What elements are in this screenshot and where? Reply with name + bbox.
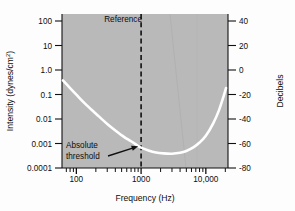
right-axis-ticks bbox=[228, 21, 236, 168]
y2-tick-label-minus-20: -20 bbox=[239, 91, 251, 100]
threshold-of-hearing-chart: 100 10 1.0 0.1 0.01 0.001 0.0001 40 20 0… bbox=[0, 0, 295, 211]
y-tick-label-100: 100 bbox=[38, 17, 52, 26]
y2-tick-label-20: 20 bbox=[239, 42, 249, 51]
y2-axis-title: Decibels bbox=[275, 75, 285, 108]
x-tick-label-10000: 10,000 bbox=[193, 175, 218, 184]
figure-container: 100 10 1.0 0.1 0.01 0.001 0.0001 40 20 0… bbox=[0, 0, 295, 211]
x-tick-label-1000: 1000 bbox=[132, 175, 151, 184]
y2-tick-label-minus-60: -60 bbox=[239, 140, 251, 149]
y-tick-label-0-01: 0.01 bbox=[36, 115, 52, 124]
left-axis-ticks bbox=[55, 21, 62, 168]
y-tick-label-0-0001: 0.0001 bbox=[27, 164, 52, 173]
y2-tick-label-40: 40 bbox=[239, 17, 249, 26]
y-axis-title-main: Intensity (dynes/cm bbox=[5, 57, 15, 131]
y-tick-label-0-001: 0.001 bbox=[32, 140, 53, 149]
y2-tick-label-0: 0 bbox=[239, 66, 244, 75]
y-tick-label-1: 1.0 bbox=[41, 66, 53, 75]
x-axis-title: Frequency (Hz) bbox=[115, 193, 174, 203]
absolute-threshold-label-line1: Absolute bbox=[66, 141, 98, 150]
y-axis-title: Intensity (dynes/cm2) bbox=[5, 51, 15, 131]
y-tick-label-10: 10 bbox=[43, 42, 53, 51]
y2-tick-label-minus-80: -80 bbox=[239, 164, 251, 173]
y2-tick-label-minus-40: -40 bbox=[239, 115, 251, 124]
x-tick-label-100: 100 bbox=[70, 175, 84, 184]
absolute-threshold-label-line2: threshold bbox=[66, 152, 100, 161]
y-tick-label-0-1: 0.1 bbox=[41, 91, 53, 100]
y-axis-title-suffix: ) bbox=[5, 51, 15, 54]
x-axis-minor-ticks bbox=[66, 168, 225, 172]
reference-label: Reference bbox=[104, 15, 142, 24]
